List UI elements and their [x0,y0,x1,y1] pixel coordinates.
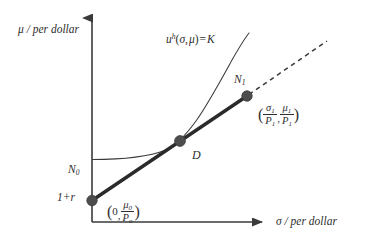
n1-coord-y-den-subscript: 1 [288,120,291,127]
x-axis-label: σ / per dollar [276,216,337,228]
curve-equation-k: K [207,33,215,45]
point-label-n0-letter: N [68,163,76,175]
n1-coord-fraction-y: μ1P1 [280,102,294,128]
origin-coord-denominator: Po [121,212,135,224]
curve-equation-paren-close: ) [195,33,199,45]
n1-coord-x-den-subscript: 1 [272,120,275,127]
curve-equation-label: uh(σ, μ) = K [166,33,215,45]
indifference-curve [93,33,250,160]
origin-coord-num-subscript: 0 [128,204,131,211]
n1-coord-fraction-x: σ1P1 [263,102,277,128]
n1-coord-x-numerator: σ1 [263,102,277,115]
curve-equation-comma: , [185,33,188,45]
n1-coord-y-denominator: P1 [280,115,294,127]
point-label-d-letter: D [192,148,201,162]
point-marker-n1 [242,91,252,101]
point-marker-n0 [87,195,97,205]
point-label-n1-subscript: 1 [242,78,246,87]
budget-line-extension [249,41,327,95]
n1-coord-x-num-subscript: 1 [271,107,274,114]
point-marker-d [175,136,186,147]
n1-coord-x-denominator: P1 [263,115,277,127]
origin-coord-numerator: μ0 [121,199,135,212]
figure-root: μ / per dollar σ / per dollar uh(σ, μ) =… [0,0,374,251]
point-label-n0: N0 [68,164,79,177]
origin-coord-paren-close: ) [134,204,139,220]
point-label-n1: N1 [234,74,245,87]
point-label-rate-text: 1+r [57,191,75,203]
y-axis-symbol: μ / per dollar [18,23,79,35]
n1-coord-paren-close: ) [294,107,299,123]
n1-coord-y-num-subscript: 1 [288,107,291,114]
n1-coord-y-numerator: μ1 [280,102,294,115]
point-label-n1-letter: N [234,73,242,85]
point-label-n0-subscript: 0 [76,168,80,177]
n1-coordinate-label: (σ1P1,μ1P1) [258,103,299,129]
origin-coordinate-label: (0,μ0Po) [107,200,140,226]
origin-coord-den-subscript: o [129,217,132,224]
x-axis-symbol: σ / per dollar [276,215,337,227]
point-label-d: D [192,149,201,161]
origin-coord-fraction: μ0Po [121,199,135,225]
curve-equation-equals: = [200,33,207,45]
point-label-rate: 1+r [57,192,75,204]
budget-line [92,96,247,201]
y-axis-label: μ / per dollar [18,24,79,36]
